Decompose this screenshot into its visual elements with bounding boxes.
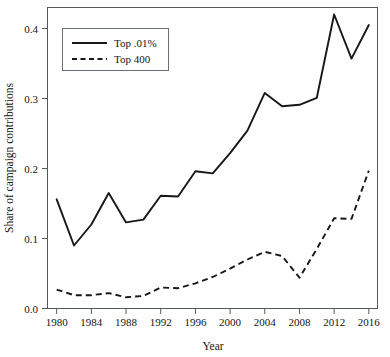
x-axis-title: Year bbox=[202, 340, 223, 352]
y-axis-title: Share of campaign contributions bbox=[3, 83, 16, 233]
y-tick-label: 0.2 bbox=[24, 163, 38, 175]
y-tick-label: 0.0 bbox=[24, 303, 38, 315]
chart-legend: Top .01% Top 400 bbox=[63, 29, 169, 71]
x-tick-label: 2016 bbox=[358, 316, 381, 328]
x-tick-label: 2000 bbox=[219, 316, 242, 328]
line-chart: 0.00.10.20.30.4 198019841988199219962000… bbox=[0, 0, 390, 357]
legend-label-top-400: Top 400 bbox=[114, 53, 151, 65]
y-tick-label: 0.1 bbox=[24, 233, 38, 245]
y-tick-label: 0.3 bbox=[24, 93, 38, 105]
chart-background bbox=[0, 0, 390, 357]
x-tick-label: 1984 bbox=[80, 316, 103, 328]
x-tick-label: 1988 bbox=[115, 316, 138, 328]
x-tick-label: 2012 bbox=[323, 316, 345, 328]
x-tick-label: 1992 bbox=[150, 316, 172, 328]
x-tick-label: 1996 bbox=[184, 316, 207, 328]
x-tick-label: 1980 bbox=[46, 316, 69, 328]
legend-label-top-001: Top .01% bbox=[114, 37, 157, 49]
x-tick-label: 2004 bbox=[254, 316, 277, 328]
y-tick-label: 0.4 bbox=[24, 23, 38, 35]
chart-container: 0.00.10.20.30.4 198019841988199219962000… bbox=[0, 0, 390, 357]
x-tick-label: 2008 bbox=[288, 316, 311, 328]
